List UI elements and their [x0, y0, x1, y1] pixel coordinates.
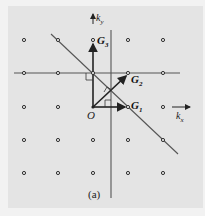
vector-g2	[93, 76, 126, 107]
ky-axis-label: ky	[96, 13, 104, 26]
g3-label: G3	[97, 35, 108, 49]
g2-label: G2	[131, 74, 142, 88]
figure-caption: (a)	[88, 188, 100, 200]
kx-axis-label: kx	[176, 111, 184, 124]
bragg-plane-g2	[51, 34, 178, 154]
right-angle-marker	[105, 100, 111, 107]
g1-label: G1	[131, 100, 142, 114]
origin-label: O	[87, 110, 95, 121]
reciprocal-lattice-diagram	[0, 0, 205, 216]
